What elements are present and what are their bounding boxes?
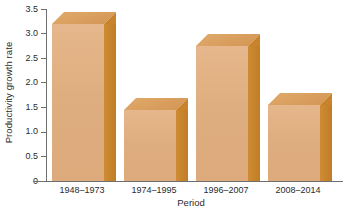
bar-1996-2007	[196, 34, 260, 181]
x-tick-label-1996-2007: 1996–2007	[190, 185, 262, 195]
y-tick-label-1-5: 1.5	[16, 103, 38, 112]
bar-side-face	[104, 24, 116, 181]
bar-front-face	[52, 24, 104, 181]
y-tick-label-2-5: 2.5	[16, 54, 38, 63]
productivity-growth-bar-chart: Productivity growth rate 3.5 3.0 2.5 2.0…	[0, 0, 345, 213]
bar-1948-1973	[52, 12, 116, 181]
bar-1974-1995	[124, 98, 188, 181]
y-tick-label-3-5: 3.5	[16, 5, 38, 14]
bar-side-face	[248, 46, 260, 181]
y-tick-label-1-0: 1.0	[16, 127, 38, 136]
bar-front-face	[196, 46, 248, 181]
y-axis-title: Productivity growth rate	[1, 2, 15, 183]
y-tick-label-2-0: 2.0	[16, 78, 38, 87]
bar-side-face	[320, 105, 332, 181]
x-tick-label-1948-1973: 1948–1973	[46, 185, 118, 195]
bar-front-face	[124, 110, 176, 181]
y-axis-line	[46, 9, 47, 182]
x-axis-title: Period	[46, 197, 336, 208]
x-tick-label-2008-2014: 2008–2014	[262, 185, 334, 195]
x-axis-line	[33, 181, 343, 182]
bar-front-face	[268, 105, 320, 181]
x-tick-label-1974-1995: 1974–1995	[118, 185, 190, 195]
bar-2008-2014	[268, 93, 332, 181]
bar-side-face	[176, 110, 188, 181]
y-tick-label-0-5: 0.5	[16, 152, 38, 161]
y-tick-label-3-0: 3.0	[16, 29, 38, 38]
